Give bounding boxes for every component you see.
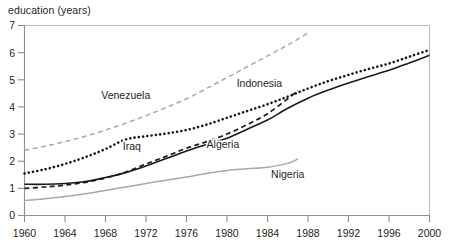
x-tick-group: 1960196419681972197619801984198819921996… — [13, 216, 442, 240]
chart-plot-area: 01234567 1960196419681972197619801984198… — [0, 0, 452, 248]
series-label-venezuela: Venezuela — [101, 89, 150, 101]
y-tick-label: 6 — [9, 47, 15, 59]
series-line-algeria — [25, 55, 430, 184]
series-label-nigeria: Nigeria — [271, 168, 304, 180]
x-tick-label: 2000 — [418, 227, 442, 239]
series-label-iraq: Iraq — [123, 140, 141, 152]
series-line-nigeria — [25, 159, 298, 201]
plot-frame — [24, 26, 430, 216]
series-line-indonesia — [25, 50, 430, 173]
x-tick-label: 1972 — [134, 227, 158, 239]
y-tick-label: 0 — [9, 209, 15, 221]
x-tick-label: 1980 — [215, 227, 239, 239]
series-label-indonesia: Indonesia — [237, 77, 283, 89]
y-tick-label: 5 — [9, 74, 15, 86]
y-tick-label: 4 — [9, 101, 15, 113]
series-label-group: VenezuelaVenezuelaIndonesiaIndonesiaIraq… — [101, 77, 304, 180]
y-tick-label: 2 — [9, 155, 15, 167]
x-tick-label: 1992 — [337, 227, 361, 239]
x-tick-label: 1960 — [13, 227, 37, 239]
y-tick-label: 7 — [9, 19, 15, 31]
x-tick-label: 1968 — [94, 227, 118, 239]
x-tick-label: 1996 — [377, 227, 401, 239]
x-tick-label: 1964 — [53, 227, 77, 239]
series-line-iraq — [25, 91, 298, 189]
x-tick-label: 1984 — [256, 227, 280, 239]
y-tick-label: 1 — [9, 182, 15, 194]
y-tick-label: 3 — [9, 128, 15, 140]
x-tick-label: 1988 — [296, 227, 320, 239]
series-line-venezuela — [25, 33, 309, 150]
x-tick-label: 1976 — [175, 227, 199, 239]
series-label-algeria: Algeria — [207, 138, 240, 150]
y-tick-group: 01234567 — [9, 19, 24, 221]
education-years-line-chart: education (years) 01234567 1960196419681… — [0, 0, 452, 248]
series-group — [25, 33, 430, 200]
